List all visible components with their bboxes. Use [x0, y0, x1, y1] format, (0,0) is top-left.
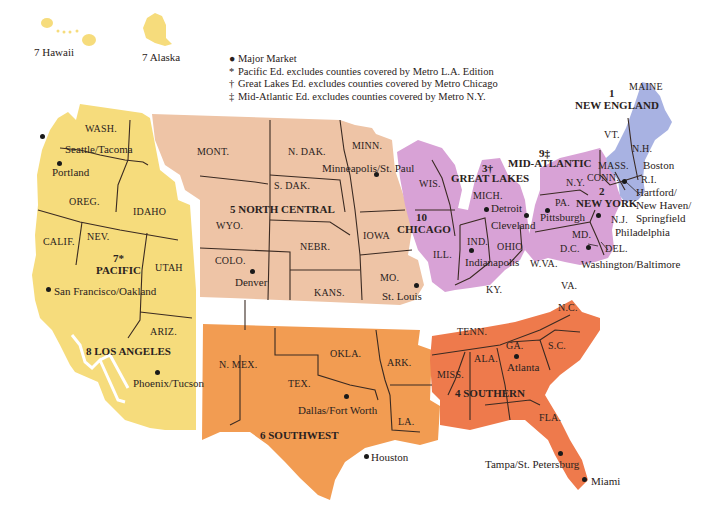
state-ind: IND.	[467, 237, 488, 247]
new-england-region-label: NEW ENGLAND	[575, 100, 659, 111]
los-angeles-region-label: 8 LOS ANGELES	[86, 346, 171, 357]
alaska-label: 7 Alaska	[142, 52, 180, 63]
city-st-louis: St. Louis	[382, 291, 422, 302]
major-market-dot-philadelphia	[596, 213, 601, 218]
state-ohio: OHIO	[497, 242, 523, 252]
great-lakes-region-label: GREAT LAKES	[451, 173, 529, 184]
state-ala: ALA.	[474, 354, 498, 364]
city-dallas: Dallas/Fort Worth	[298, 405, 377, 416]
city-indianapolis: Indianapolis	[465, 257, 519, 268]
city-detroit: Detroit	[491, 203, 522, 214]
state-iowa: IOWA	[363, 231, 390, 241]
city-seattle: Seattle/Tacoma	[65, 144, 133, 155]
major-market-dot-cleveland	[524, 213, 529, 218]
city-atlanta: Atlanta	[507, 362, 539, 373]
hawaii-label: 7 Hawaii	[34, 47, 74, 58]
map-legend: ●Major Market *Pacific Ed. excludes coun…	[229, 53, 498, 103]
new-york-region-label: NEW YORK	[576, 198, 637, 209]
city-denver: Denver	[235, 277, 267, 288]
city-philadelphia: Philadelphia	[615, 227, 670, 238]
state-la: LA.	[398, 417, 414, 427]
major-market-dot-washington	[586, 245, 591, 250]
state-utah: UTAH	[155, 263, 183, 273]
city-minneapolis: Minneapolis/St. Paul	[322, 163, 414, 174]
state-conn: CONN.	[587, 173, 619, 183]
major-market-dot-hartford	[622, 179, 627, 184]
state-mass: MASS.	[598, 161, 629, 171]
city-hartford-line-3: Springfield	[636, 212, 691, 225]
major-market-dot-indianapolis	[469, 248, 474, 253]
state-wis: WIS.	[419, 179, 441, 189]
city-san-francisco: San Francisco/Oakland	[54, 286, 156, 297]
legend-item-great-lakes: †Great Lakes Ed. excludes counties cover…	[229, 78, 498, 91]
state-mo: MO.	[380, 273, 399, 283]
state-ariz: ARIZ.	[150, 327, 177, 337]
state-mont: MONT.	[197, 147, 229, 157]
state-pa: PA.	[555, 198, 570, 208]
city-houston: Houston	[371, 452, 408, 463]
southern-region-label: 4 SOUTHERN	[455, 388, 525, 399]
major-market-dot-san-francisco	[46, 287, 51, 292]
state-nj: N.J.	[611, 215, 628, 225]
major-market-dot-st-louis	[414, 283, 419, 288]
state-tex: TEX.	[288, 379, 311, 389]
pacific-number: 7*	[113, 253, 124, 264]
state-mich: MICH.	[473, 191, 503, 201]
hawaii-inset-shape	[41, 18, 96, 46]
state-del: DEL.	[605, 244, 628, 254]
city-miami: Miami	[591, 476, 620, 487]
state-ark: ARK.	[387, 358, 411, 368]
state-maine: MAINE	[629, 82, 663, 92]
southwest-region-label: 6 SOUTHWEST	[260, 430, 339, 441]
state-ndak: N. DAK.	[288, 147, 326, 157]
chicago-region-label: CHICAGO	[397, 224, 451, 235]
state-dc: D.C.	[560, 244, 580, 254]
major-market-dot-miami	[582, 477, 587, 482]
major-market-dot-seattle	[40, 134, 45, 139]
legend-item-pacific: *Pacific Ed. excludes counties covered b…	[229, 66, 498, 79]
city-tampa: Tampa/St. Petersburg	[485, 459, 579, 470]
state-wyo: WYO.	[216, 221, 243, 231]
city-hartford-line-1: Hartford/	[636, 186, 691, 199]
state-ky: KY.	[486, 285, 502, 295]
new-england-number: 1	[609, 88, 615, 99]
city-hartford-line-2: New Haven/	[636, 199, 691, 212]
state-colo: COLO.	[215, 256, 246, 266]
state-wash: WASH.	[85, 124, 117, 134]
city-washington: Washington/Baltimore	[581, 259, 680, 270]
north-central-region-label: 5 NORTH CENTRAL	[230, 204, 335, 215]
state-ill: ILL.	[433, 250, 452, 260]
mid-atlantic-region-label: MID-ATLANTIC	[508, 158, 592, 169]
state-ri: R.I.	[641, 175, 657, 185]
state-calif: CALIF.	[43, 237, 75, 247]
state-nh: N.H.	[632, 144, 652, 154]
state-va: VA.	[561, 281, 577, 291]
state-nev: NEV.	[87, 232, 110, 242]
alaska-inset-shape	[143, 13, 172, 46]
state-vt: VT.	[604, 130, 620, 140]
city-pittsburgh: Pittsburgh	[540, 212, 585, 223]
state-fla: FLA.	[539, 413, 561, 423]
city-boston: Boston	[643, 160, 674, 171]
chicago-number: 10	[416, 212, 427, 223]
new-york-number: 2	[599, 186, 605, 197]
city-phoenix: Phoenix/Tucson	[133, 378, 204, 389]
state-oreg: OREG.	[69, 197, 100, 207]
pacific-region-label: PACIFIC	[96, 265, 141, 276]
major-market-dot-phoenix	[155, 370, 160, 375]
state-nc: N.C.	[558, 303, 578, 313]
legend-item-mid-atlantic: ‡Mid-Atlantic Ed. excludes counties cove…	[229, 91, 498, 104]
major-market-dot-dallas	[344, 394, 349, 399]
state-wva: W.VA.	[530, 259, 558, 269]
major-market-dot-denver	[250, 269, 255, 274]
state-ny: N.Y.	[566, 178, 585, 188]
state-ga: GA.	[506, 341, 524, 351]
state-kans: KANS.	[314, 288, 345, 298]
state-sc: S.C.	[548, 341, 566, 351]
legend-item-major-market: ●Major Market	[229, 53, 498, 66]
state-minn: MINN.	[352, 141, 382, 151]
city-hartford-new-haven-springfield: Hartford/ New Haven/ Springfield	[636, 186, 691, 225]
city-cleveland: Cleveland	[491, 220, 536, 231]
state-okla: OKLA.	[330, 349, 361, 359]
state-md: MD.	[572, 230, 591, 240]
